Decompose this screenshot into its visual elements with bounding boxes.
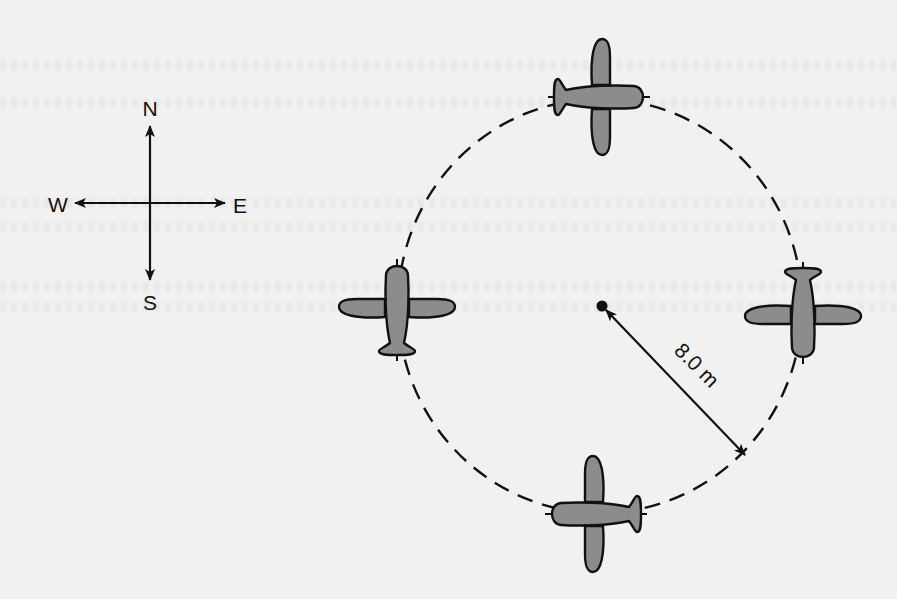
compass-rose xyxy=(75,126,225,280)
circle-center-dot xyxy=(597,301,608,312)
compass-label-south: S xyxy=(143,292,157,313)
compass-label-east: E xyxy=(233,195,247,216)
airplane-right-heading-south-icon xyxy=(745,262,861,364)
compass-label-west: W xyxy=(48,194,68,215)
airplane-top-heading-east-icon xyxy=(548,39,650,155)
diagram-canvas xyxy=(0,0,897,599)
airplane-left-heading-north-icon xyxy=(339,259,455,361)
airplane-bottom-heading-west-icon xyxy=(545,456,647,572)
radius-arrow xyxy=(606,310,745,455)
compass-label-north: N xyxy=(142,98,157,119)
